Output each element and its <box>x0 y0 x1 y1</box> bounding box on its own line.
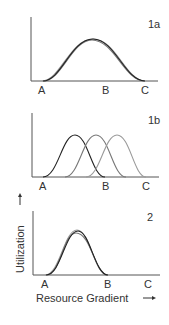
panel-2-axes <box>33 211 160 275</box>
panel-2-curve-mid <box>47 233 107 275</box>
panel-1b-curve-light <box>86 135 146 177</box>
panel-1b-curve-mid <box>65 135 126 177</box>
x-axis-annotation: Resource Gradient <box>36 292 156 304</box>
panel-1b-tick-a: A <box>39 180 47 192</box>
x-axis-label: Resource Gradient <box>36 292 128 304</box>
panel-2-tick-b: B <box>104 278 111 290</box>
panel-1a-label: 1a <box>148 18 161 30</box>
panel-1b: 1b A B C <box>32 113 160 192</box>
panel-2-tick-c: C <box>144 278 152 290</box>
up-arrow-head <box>18 193 22 197</box>
panel-2-curve-light <box>45 230 108 275</box>
right-arrow-head <box>152 296 156 300</box>
panel-1a-curve-dark <box>43 39 145 81</box>
panel-1a-tick-c: C <box>141 84 149 96</box>
panel-1a-curve-mid <box>44 40 144 81</box>
panel-2-label: 2 <box>147 211 153 223</box>
panel-1b-label: 1b <box>148 114 160 126</box>
panel-1a: 1a A B C <box>31 17 161 96</box>
panel-1a-tick-a: A <box>38 84 46 96</box>
panel-1a-axes <box>31 17 158 81</box>
niche-utilization-diagram: 1a A B C 1b A B C Utilization 2 A B C Re… <box>0 0 169 325</box>
panel-1a-tick-b: B <box>102 84 109 96</box>
panel-1b-tick-c: C <box>142 180 150 192</box>
panel-2-tick-a: A <box>41 278 49 290</box>
panel-2: 2 A B C <box>33 211 160 290</box>
panel-1b-tick-b: B <box>102 180 109 192</box>
panel-1a-curve-light <box>42 39 145 81</box>
y-axis-annotation: Utilization <box>14 193 26 273</box>
y-axis-label: Utilization <box>14 225 26 273</box>
